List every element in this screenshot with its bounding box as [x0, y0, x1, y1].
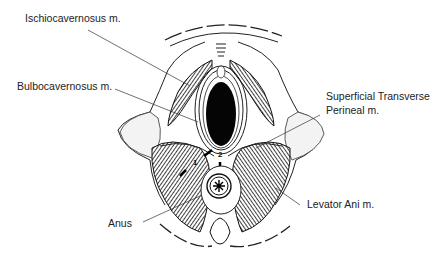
marker-1: 1: [193, 158, 197, 167]
label-superficial-transverse-line2: Perineal m.: [326, 104, 379, 117]
label-ischiocavernosus: Ischiocavernosus m.: [25, 12, 121, 25]
anatomy-illustration: [0, 0, 440, 268]
label-bulbocavernosus: Bulbocavernosus m.: [17, 80, 112, 93]
leader-ischiocavernosus: [88, 30, 190, 86]
label-levator-ani: Levator Ani m.: [307, 198, 374, 211]
leader-levator-ani: [276, 188, 300, 205]
label-superficial-transverse-line1: Superficial Transverse: [326, 90, 430, 103]
label-anus: Anus: [108, 217, 132, 230]
marker-2: 2: [218, 150, 222, 159]
perineal-muscle-diagram: Ischiocavernosus m. Bulbocavernosus m. S…: [0, 0, 440, 268]
